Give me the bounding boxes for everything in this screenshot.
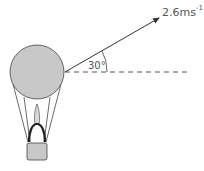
velocity-exponent: -1: [196, 4, 203, 12]
burner-frame: [29, 124, 45, 142]
velocity-value: 2.6ms: [162, 6, 196, 19]
balloon-envelope: [10, 45, 64, 99]
velocity-label: 2.6ms-1: [162, 6, 203, 19]
burner-flame: [34, 104, 39, 124]
angle-label: 30°: [88, 60, 106, 71]
hot-air-balloon-diagram: [0, 0, 204, 171]
velocity-arrow: [65, 18, 159, 72]
basket: [27, 143, 47, 160]
